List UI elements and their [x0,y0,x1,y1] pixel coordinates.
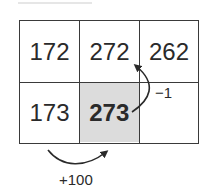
minus-one-label: −1 [155,84,172,101]
plus-hundred-arrow-icon [48,150,106,164]
minus-one-arrow-icon [132,66,149,112]
arrows-layer [0,0,206,189]
plus-hundred-label: +100 [59,171,93,188]
